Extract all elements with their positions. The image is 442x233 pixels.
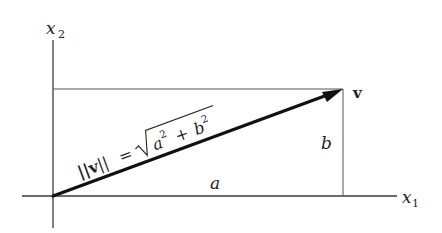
side-a-label: a <box>210 173 220 193</box>
vector-v <box>53 89 343 196</box>
svg-text:x: x <box>402 187 412 207</box>
x2-axis-label: x 2 <box>46 18 65 41</box>
svg-text:x: x <box>46 18 56 38</box>
svg-text:2: 2 <box>58 28 65 41</box>
x1-axis-label: x 1 <box>402 187 419 210</box>
arrowhead-icon <box>322 89 343 102</box>
svg-text:1: 1 <box>412 197 419 210</box>
vector-label: v <box>352 84 363 102</box>
equals-sign: = <box>116 144 135 166</box>
side-b-label: b <box>321 133 332 153</box>
vector-norm-diagram: x 2 x 1 v b a ||v|| = a 2 + b 2 <box>0 0 442 233</box>
svg-text:+: + <box>172 123 191 145</box>
